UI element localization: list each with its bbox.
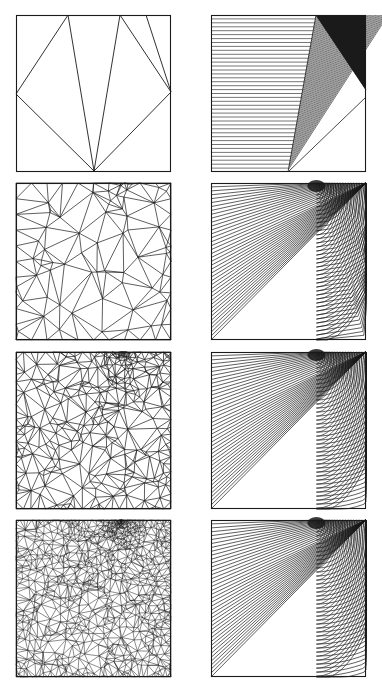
contour-solution-contours-level-1 <box>211 183 366 340</box>
contour-solution-contours-level-2 <box>211 352 366 509</box>
mesh-initial-mesh <box>16 15 171 172</box>
mesh-refined-mesh-level-2 <box>16 352 171 509</box>
mesh-refined-mesh-level-1 <box>16 183 171 340</box>
contour-solution-contours-level-3 <box>211 520 366 677</box>
contour-initial-solution-contours <box>211 15 366 172</box>
mesh-refined-mesh-level-3 <box>16 520 171 677</box>
figure: Adaptive mesh refinement sequence (left … <box>0 0 382 694</box>
